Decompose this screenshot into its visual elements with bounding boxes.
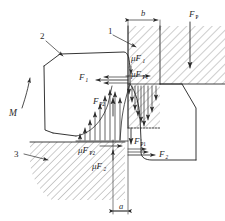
dimension-a-label: a [119, 201, 123, 211]
svg-text:μF: μF [130, 53, 142, 63]
svg-text:μF: μF [77, 145, 89, 155]
svg-text:P: P [196, 14, 199, 20]
svg-text:P2: P2 [99, 101, 105, 107]
dimension-b-label: b [141, 8, 145, 18]
svg-text:2: 2 [165, 154, 168, 160]
upper-workpiece [44, 52, 130, 136]
upper-right-die [160, 26, 225, 84]
lower-shear-curve [76, 86, 112, 136]
punching-force-diagram: 1 2 3 b a F P F 1 F 2 F P1 F P2 μF 1 μF … [0, 0, 225, 221]
lower-pressure-distribution [76, 90, 128, 141]
part-number-3: 3 [14, 149, 19, 159]
svg-text:P1: P1 [143, 74, 149, 80]
svg-text:F: F [92, 96, 99, 106]
svg-text:F: F [133, 136, 140, 146]
force-F_P1-label: F P1 [133, 136, 146, 147]
moment-M-arrow [22, 78, 30, 108]
part-number-2: 2 [40, 31, 45, 41]
force-F_P-label: F P [188, 9, 199, 20]
svg-text:μF: μF [91, 161, 103, 171]
moment-M-label: M [8, 108, 18, 118]
svg-text:F: F [158, 149, 165, 159]
part-number-1: 1 [108, 26, 113, 36]
svg-text:μF: μF [130, 69, 142, 79]
svg-text:P2: P2 [90, 150, 96, 156]
svg-text:F: F [188, 9, 195, 19]
svg-text:1: 1 [143, 58, 146, 64]
svg-text:F: F [78, 72, 85, 82]
svg-text:P1: P1 [140, 141, 146, 147]
figure-canvas: 1 2 3 b a F P F 1 F 2 F P1 F P2 μF 1 μF … [0, 0, 225, 221]
force-F_P2-label: F P2 [92, 96, 105, 107]
svg-text:1: 1 [85, 77, 88, 83]
svg-text:2: 2 [104, 166, 107, 172]
force-F_2-label: F 2 [158, 149, 168, 160]
